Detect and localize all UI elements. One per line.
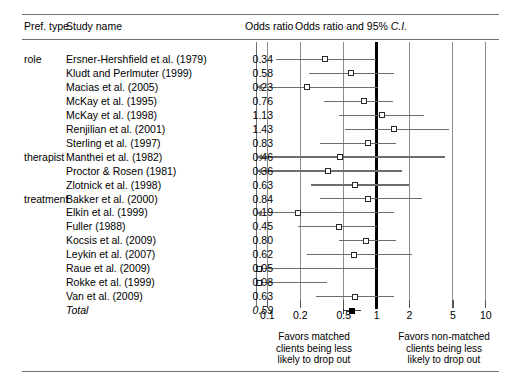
- axis-label-1: 1: [374, 309, 380, 321]
- study-effect-marker: [365, 140, 371, 146]
- caption-favors-non-matched: Favors non-matched clients being less li…: [386, 331, 502, 366]
- study-effect-marker: [304, 84, 310, 90]
- study-effect-marker: [379, 112, 385, 118]
- odds-ratio-value: 0.58: [245, 68, 273, 79]
- confidence-interval-line: [320, 143, 396, 144]
- study-name: Sterling et al. (1997): [66, 138, 161, 149]
- study-name: Ersner-Hershfield et al. (1979): [66, 54, 207, 65]
- axis-tick-10: [485, 300, 486, 308]
- confidence-interval-line: [262, 156, 445, 157]
- pref-type: treatment: [24, 194, 68, 205]
- axis-label-0.5: 0.5: [336, 309, 351, 321]
- study-name: McKay et al. (1995): [66, 96, 157, 107]
- table-header-rule: [22, 39, 499, 40]
- study-name: Kludt and Perlmuter (1999): [66, 68, 192, 79]
- plot-title-ci: C.I.: [391, 20, 407, 32]
- study-name: Elkin et al. (1999): [66, 207, 148, 218]
- study-name: Proctor & Rosen (1981): [66, 166, 176, 177]
- odds-ratio-value: 0.45: [245, 221, 273, 232]
- axis-label-5: 5: [450, 309, 456, 321]
- odds-ratio-value: 0.46: [245, 152, 273, 163]
- study-name: Kocsis et al. (2009): [66, 235, 156, 246]
- study-effect-marker: [352, 182, 358, 188]
- odds-ratio-value: 0.76: [245, 96, 273, 107]
- odds-ratio-value: 0.19: [245, 207, 273, 218]
- confidence-interval-line: [262, 268, 377, 269]
- study-effect-marker: [391, 126, 397, 132]
- study-name: Bakker et al. (2000): [66, 194, 158, 205]
- study-name: Leykin et al. (2007): [66, 249, 155, 260]
- odds-ratio-value: 0.63: [245, 291, 273, 302]
- axis-tick-0.2: [300, 300, 301, 308]
- confidence-interval-line: [311, 184, 410, 185]
- odds-ratio-value-total: 0.59: [245, 305, 273, 316]
- confidence-interval-line: [262, 170, 402, 171]
- study-name: Raue et al. (2009): [66, 263, 150, 274]
- study-effect-marker: [365, 196, 371, 202]
- gridline-2: [409, 42, 410, 300]
- odds-ratio-value: 0.36: [245, 166, 273, 177]
- study-name: Manthei et al. (1982): [66, 152, 162, 163]
- odds-ratio-value: 0.34: [245, 54, 273, 65]
- pref-type: therapist: [24, 152, 64, 163]
- study-name: Van et al. (2009): [66, 291, 143, 302]
- x-axis: 0.10.20.512510: [256, 300, 499, 322]
- study-effect-marker: [325, 168, 331, 174]
- confidence-interval-line: [324, 101, 393, 102]
- axis-tick-1: [375, 300, 378, 309]
- column-header-study-name: Study name: [66, 20, 122, 32]
- odds-ratio-value: 1.13: [245, 110, 273, 121]
- confidence-interval-line: [307, 254, 412, 255]
- caption-favors-matched: Favors matched clients being less likely…: [258, 331, 370, 366]
- odds-ratio-value: 0.84: [245, 194, 273, 205]
- study-effect-marker: [363, 238, 369, 244]
- study-name: Renjilian et al. (2001): [66, 124, 165, 135]
- gridline-10: [485, 42, 486, 300]
- study-effect-marker: [352, 294, 358, 300]
- confidence-interval-line: [345, 129, 449, 130]
- axis-tick-2: [409, 300, 410, 308]
- study-name: Zlotnick et al. (1998): [66, 180, 161, 191]
- axis-label-10: 10: [480, 309, 492, 321]
- axis-tick-5: [452, 300, 453, 308]
- axis-tick-0.5: [343, 300, 344, 308]
- odds-ratio-value: 0.08: [245, 277, 273, 288]
- odds-ratio-value: 0.05: [245, 263, 273, 274]
- confidence-interval-line: [262, 87, 378, 88]
- table-top-rule: [22, 14, 499, 15]
- column-header-odds-ratio: Odds ratio: [245, 20, 293, 32]
- odds-ratio-value: 0.23: [245, 82, 273, 93]
- study-name: McKay et al. (1998): [66, 110, 157, 121]
- study-effect-marker: [348, 70, 354, 76]
- study-effect-marker: [322, 56, 328, 62]
- study-effect-marker: [361, 98, 367, 104]
- table-bottom-rule: [22, 371, 499, 372]
- column-header-pref-type: Pref. type: [24, 20, 69, 32]
- axis-label-0.2: 0.2: [293, 309, 308, 321]
- pref-type: role: [24, 54, 42, 65]
- plot-title-main: Odds ratio and 95%: [295, 20, 391, 32]
- study-effect-marker: [295, 210, 301, 216]
- odds-ratio-value: 0.83: [245, 138, 273, 149]
- forest-plot-figure: Pref. type Study name Odds ratio Odds ra…: [0, 0, 507, 383]
- study-effect-marker: [337, 154, 343, 160]
- study-effect-marker: [351, 252, 357, 258]
- study-effect-marker: [336, 224, 342, 230]
- odds-ratio-value: 0.62: [245, 249, 273, 260]
- odds-ratio-value: 1.43: [245, 124, 273, 135]
- study-name: Macias et al. (2005): [66, 82, 158, 93]
- column-header-plot-title: Odds ratio and 95% C.I.: [295, 20, 407, 32]
- odds-ratio-value: 0.80: [245, 235, 273, 246]
- study-name: Rokke et al. (1999): [66, 277, 155, 288]
- odds-ratio-value: 0.63: [245, 180, 273, 191]
- gridline-5: [452, 42, 453, 300]
- plot-area: [256, 42, 499, 306]
- study-name: Fuller (1988): [66, 221, 126, 232]
- axis-label-2: 2: [407, 309, 413, 321]
- confidence-interval-line: [262, 212, 394, 213]
- study-name-total: Total: [66, 305, 88, 316]
